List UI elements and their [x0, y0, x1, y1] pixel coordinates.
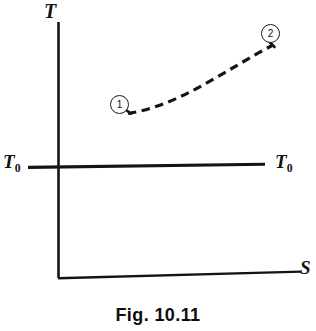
t0-label-right: T0 — [275, 152, 293, 171]
process-curve-1-to-2 — [128, 46, 272, 114]
ts-diagram — [0, 0, 316, 331]
t0-label-left: T0 — [3, 152, 21, 171]
t0-right-main: T — [275, 151, 287, 172]
state-point-1-marker: 1 — [110, 95, 129, 114]
t0-left-main: T — [3, 151, 15, 172]
t0-left-subscript: 0 — [15, 162, 21, 175]
figure-container: T T0 T0 S 1 2 Fig. 10.11 — [0, 0, 316, 331]
x-axis-label-S: S — [300, 258, 311, 277]
figure-caption: Fig. 10.11 — [0, 305, 316, 326]
state-point-2-marker: 2 — [261, 24, 280, 43]
ambient-temperature-line — [28, 164, 265, 167]
t0-right-subscript: 0 — [287, 162, 293, 175]
s-axis-line — [58, 272, 301, 279]
y-axis-label-T: T — [44, 1, 56, 21]
